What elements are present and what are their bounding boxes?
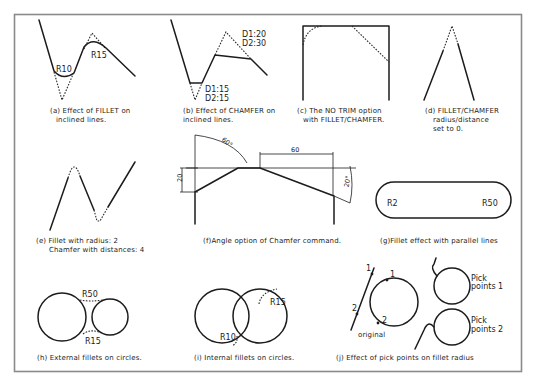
filleted-polyline — [39, 20, 135, 77]
caption-a-line2: inclined lines. — [56, 116, 106, 124]
circle-large — [38, 293, 86, 341]
label-dim-60: 60 — [291, 146, 299, 154]
label-d1-15: D1:15 — [205, 85, 229, 94]
right-line — [458, 44, 474, 100]
pick-point-2-line — [356, 313, 359, 316]
caption-c-line1: (c) The NO TRIM option — [297, 107, 382, 115]
fillet-peak — [68, 167, 80, 178]
label-r15: R15 — [91, 51, 107, 60]
panel-d-zero: (d) FILLET/CHAMFER radius/distance set t… — [424, 26, 499, 133]
caption-b-line1: (b) Effect of CHAMFER on — [183, 107, 275, 115]
label-r10: R10 — [220, 333, 236, 342]
pick-point-1-line — [371, 273, 374, 276]
label-circle-2: 2 — [382, 316, 387, 325]
pick-point-1-circle — [386, 279, 389, 282]
label-pick-2b: points 2 — [471, 325, 503, 334]
caption-h: (h) External fillets on circles. — [37, 354, 142, 362]
dim-60-horizontal — [260, 152, 333, 196]
panel-j-pick-points: 1 1 2 2 original Pick points 1 Pick poin… — [336, 258, 503, 362]
label-line-1: 1 — [366, 264, 371, 273]
label-circle-1: 1 — [390, 270, 395, 279]
caption-f: (f)Angle option of Chamfer command. — [203, 237, 341, 245]
caption-i: (i) Internal fillets on circles. — [194, 354, 294, 362]
caption-b-line2: inclined lines. — [183, 116, 233, 124]
figure-frame — [15, 15, 522, 372]
pick-point-2-circle — [377, 322, 380, 325]
rectangle-open — [303, 26, 389, 100]
original-corner-lower — [190, 83, 202, 100]
label-r15: R15 — [85, 337, 101, 346]
panel-h-external: R50 R15 (h) External fillets on circles. — [37, 290, 142, 362]
label-angle-20: 20° — [343, 175, 353, 188]
label-r15: R15 — [270, 298, 286, 307]
panel-f-chamfer-angle: 60° 60 20 20° (f)Angle option of Chamfer… — [176, 135, 356, 245]
panel-c-no-trim: (c) The NO TRIM option with FILLET/CHAMF… — [297, 26, 389, 124]
fillet-r50 — [80, 300, 103, 301]
line-2 — [80, 176, 94, 210]
label-r50: R50 — [482, 199, 498, 208]
panel-g-parallel: R2 R50 (g)Fillet effect with parallel li… — [376, 182, 511, 245]
label-d2-30: D2:30 — [242, 39, 266, 48]
result-circle-1 — [434, 268, 470, 304]
label-pick-2a: Pick — [471, 316, 487, 325]
label-dim-20: 20 — [176, 174, 184, 182]
caption-g: (g)Fillet effect with parallel lines — [380, 237, 498, 245]
label-d2-15: D2:15 — [205, 94, 229, 103]
label-d1-20: D1:20 — [242, 30, 266, 39]
chamfer-line-preview — [352, 26, 389, 62]
fillet-r15 — [83, 331, 99, 334]
line-3 — [108, 162, 135, 207]
line-1 — [50, 178, 68, 230]
caption-j: (j) Effect of pick points on fillet radi… — [336, 354, 474, 362]
panel-e-fillet-chamfer: (e) Fillet with radius: 2 Chamfer with d… — [36, 162, 145, 254]
original-circle — [370, 278, 418, 326]
chamfered-profile — [195, 168, 334, 224]
caption-d-line1: (d) FILLET/CHAMFER — [425, 107, 499, 115]
caption-e-line2: Chamfer with distances: 4 — [49, 246, 145, 254]
caption-a-line1: (a) Effect of FILLET on — [50, 107, 130, 115]
label-r10: R10 — [56, 65, 72, 74]
caption-c-line2: with FILLET/CHAMFER. — [303, 116, 384, 124]
panel-i-internal: R15 R10 (i) Internal fillets on circles. — [194, 289, 294, 362]
left-line — [424, 51, 443, 100]
label-original: original — [358, 331, 385, 339]
fillet-chamfer-diagram: R10 R15 (a) Effect of FILLET on inclined… — [0, 0, 538, 386]
label-line-2: 2 — [352, 304, 357, 313]
caption-d-line2: radius/distance — [433, 116, 489, 124]
fillet-arc-preview — [303, 26, 322, 45]
circle-small — [92, 299, 128, 335]
panel-b-chamfer-inclined: D1:20 D2:30 D1:15 D2:15 (b) Effect of CH… — [171, 20, 275, 124]
label-r50: R50 — [82, 290, 98, 299]
result-line-2 — [415, 324, 434, 349]
chamfer-valley — [94, 207, 108, 221]
panel-a-fillet-inclined: R10 R15 (a) Effect of FILLET on inclined… — [39, 20, 135, 124]
original-corner-upper — [84, 33, 106, 49]
label-pick-1b: points 1 — [471, 282, 503, 291]
result-line-1 — [433, 258, 437, 276]
caption-e-line1: (e) Fillet with radius: 2 — [36, 237, 118, 245]
result-circle-2 — [434, 309, 470, 345]
extended-corner — [443, 26, 458, 51]
caption-d-line3: set to 0. — [433, 125, 463, 133]
label-r2: R2 — [387, 199, 398, 208]
